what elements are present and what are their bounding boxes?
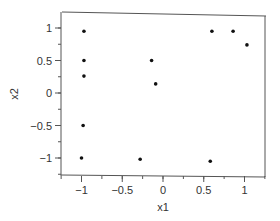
data-point xyxy=(82,29,86,33)
y-tick-label: −1 xyxy=(39,152,52,164)
data-point xyxy=(82,59,86,63)
plot-frame xyxy=(61,12,266,177)
y-axis-label: x2 xyxy=(8,88,20,100)
data-point xyxy=(154,82,158,86)
x-axis-ticks: −1−0.500.51 xyxy=(61,176,265,196)
top-border xyxy=(62,12,266,16)
x-axis-label: x1 xyxy=(157,201,169,213)
y-axis-ticks: 10.50−0.5−1 xyxy=(30,22,61,174)
x-tick-label: −1 xyxy=(75,184,88,196)
y-tick-label: 0 xyxy=(46,87,52,99)
data-point xyxy=(210,29,214,33)
y-tick-label: 0.5 xyxy=(37,55,52,67)
data-point xyxy=(82,74,86,78)
data-point xyxy=(231,29,235,33)
data-point xyxy=(81,124,85,128)
y-tick-label: −0.5 xyxy=(30,120,52,132)
data-point xyxy=(138,158,142,162)
data-points xyxy=(80,29,249,163)
data-point xyxy=(150,59,154,63)
x-tick-label: 0.5 xyxy=(196,184,211,196)
y-tick-label: 1 xyxy=(46,22,52,34)
x-tick-label: 1 xyxy=(241,184,247,196)
x-tick-label: 0 xyxy=(160,184,166,196)
data-point xyxy=(80,156,84,160)
x-tick-label: −0.5 xyxy=(111,184,133,196)
scatter-chart: −1−0.500.51 10.50−0.5−1 x1 x2 xyxy=(0,0,280,221)
data-point xyxy=(208,159,212,163)
data-point xyxy=(245,43,249,47)
